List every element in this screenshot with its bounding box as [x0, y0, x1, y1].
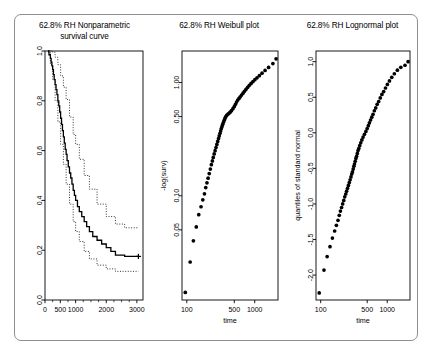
- data-point: [210, 163, 214, 167]
- data-point: [205, 181, 209, 185]
- panel-lognormal-plot: 62.8% RH Lognormal plot 1005001000-2.0-1…: [286, 15, 419, 342]
- y-tick-label: 1.00: [173, 76, 180, 90]
- y-tick-label: 0.05: [173, 223, 180, 237]
- data-point: [208, 167, 212, 171]
- data-point: [207, 172, 211, 176]
- data-point: [382, 90, 386, 94]
- data-point: [263, 69, 267, 73]
- data-point: [339, 209, 343, 213]
- y-tick-label: -0.5: [307, 162, 314, 174]
- data-point: [406, 60, 410, 64]
- data-point: [322, 268, 326, 272]
- y-tick-label: 0.0: [307, 128, 314, 138]
- data-point: [337, 213, 341, 217]
- data-point: [201, 198, 205, 202]
- x-tick-label: 0: [43, 306, 47, 313]
- x-tick-label: 1000: [247, 306, 263, 313]
- y-tick-label: 0.10: [173, 189, 180, 203]
- data-point: [199, 205, 203, 209]
- y-tick-label: 1.0: [307, 57, 314, 67]
- x-axis-label: time: [223, 316, 237, 325]
- x-axis-label: time: [356, 316, 370, 325]
- data-point: [335, 223, 339, 227]
- y-tick-label: -2.0: [307, 269, 314, 281]
- data-point: [388, 79, 392, 83]
- panel-weibull-plot: 62.8% RH Weibull plot 10050010000.050.10…: [152, 15, 286, 342]
- data-point: [274, 57, 278, 61]
- scatter-points: [317, 60, 410, 295]
- data-point: [192, 239, 196, 243]
- data-point: [325, 255, 329, 259]
- data-point: [384, 86, 388, 90]
- figure-frame: 62.8% RH Nonparametric survival curve 05…: [14, 14, 418, 341]
- x-tick-label: 1000: [68, 306, 84, 313]
- data-point: [183, 291, 187, 295]
- y-tick-label: 0.4: [36, 195, 43, 205]
- scatter-points: [183, 57, 277, 294]
- panel-2-plot: 10050010000.050.100.501.00time-log(surv): [152, 15, 286, 342]
- y-tick-label: 1.0: [36, 46, 43, 56]
- x-tick-label: 2000: [98, 306, 114, 313]
- data-point: [371, 112, 375, 116]
- y-axis-label: -log(surv): [159, 160, 168, 190]
- data-point: [206, 176, 210, 180]
- x-tick-label: 1000: [379, 306, 395, 313]
- survival-step-line: [48, 51, 138, 256]
- x-tick-label: 500: [361, 306, 373, 313]
- plot-box: [316, 51, 410, 300]
- data-point: [377, 100, 381, 104]
- data-point: [333, 229, 337, 233]
- y-tick-label: -1.0: [307, 198, 314, 210]
- data-point: [328, 245, 332, 249]
- censor-marker: [136, 254, 141, 259]
- panel-nonparametric-survival: 62.8% RH Nonparametric survival curve 05…: [17, 15, 152, 342]
- data-point: [331, 236, 335, 240]
- y-tick-label: 0.0: [36, 295, 43, 305]
- x-tick-label: 500: [228, 306, 240, 313]
- data-point: [396, 68, 400, 72]
- data-point: [374, 106, 378, 110]
- data-point: [393, 72, 397, 76]
- panel-1-plot: 05001000200030000.00.20.40.60.81.0: [17, 15, 152, 342]
- data-point: [342, 199, 346, 203]
- data-point: [403, 63, 407, 67]
- data-point: [188, 260, 192, 264]
- y-tick-label: 0.2: [36, 245, 43, 255]
- data-point: [336, 218, 340, 222]
- data-point: [341, 202, 345, 206]
- y-tick-label: 0.5: [307, 92, 314, 102]
- data-point: [212, 152, 216, 156]
- y-tick-label: 0.8: [36, 96, 43, 106]
- data-point: [399, 66, 403, 70]
- data-point: [197, 213, 201, 217]
- data-point: [271, 62, 275, 66]
- x-tick-label: 100: [181, 306, 193, 313]
- plot-box: [182, 51, 278, 300]
- y-tick-label: 0.6: [36, 146, 43, 156]
- data-point: [211, 156, 215, 160]
- data-point: [194, 225, 198, 229]
- data-point: [317, 291, 321, 295]
- y-tick-label: 0.50: [173, 110, 180, 124]
- confidence-band-line: [48, 52, 138, 271]
- x-tick-label: 500: [54, 306, 66, 313]
- data-point: [211, 159, 215, 163]
- confidence-band-line: [48, 51, 138, 228]
- y-axis-label: quantiles of standard normal: [293, 130, 302, 221]
- data-point: [203, 192, 207, 196]
- panel-3-plot: 1005001000-2.0-1.5-1.0-0.50.00.51.0timeq…: [286, 15, 419, 342]
- data-point: [378, 96, 382, 100]
- plot-box: [45, 51, 143, 300]
- data-point: [260, 71, 264, 75]
- data-point: [213, 149, 217, 153]
- data-point: [267, 66, 271, 70]
- data-point: [390, 75, 394, 79]
- data-point: [386, 83, 390, 87]
- data-point: [340, 206, 344, 210]
- data-point: [204, 186, 208, 190]
- y-tick-label: -1.5: [307, 233, 314, 245]
- x-tick-label: 100: [315, 306, 327, 313]
- x-tick-label: 3000: [129, 306, 145, 313]
